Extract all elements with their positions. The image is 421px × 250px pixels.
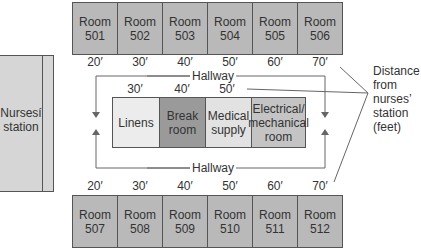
room-label: Room	[214, 15, 246, 29]
room-number: 501	[85, 29, 105, 43]
room-number: 506	[310, 29, 330, 43]
cell-label: Break	[167, 109, 198, 123]
cell-label: Medical	[208, 109, 249, 123]
room-506: Room506	[297, 2, 343, 55]
room-label: Room	[259, 208, 291, 222]
room-number: 508	[130, 222, 150, 236]
distance-label: 50′	[210, 55, 250, 69]
distance-label: 40′	[165, 55, 205, 69]
room-number: 511	[265, 222, 284, 236]
distance-legend: Distance from nurses’ station (feet)	[373, 64, 420, 134]
room-number: 505	[265, 29, 285, 43]
hallway-label-bottom: Hallway	[190, 161, 236, 175]
legend-line: (feet)	[373, 120, 401, 134]
cell-label: room	[265, 130, 292, 144]
room-label: Room	[124, 208, 156, 222]
room-number: 507	[85, 222, 105, 236]
distance-label: 70′	[300, 55, 340, 69]
cell-label: room	[169, 123, 196, 137]
station-divider	[42, 56, 43, 191]
room-label: Room	[169, 208, 201, 222]
room-508: Room508	[117, 195, 163, 248]
room-number: 504	[220, 29, 240, 43]
distance-label: 60′	[255, 55, 295, 69]
room-503: Room503	[162, 2, 208, 55]
cell-label: Linens	[118, 116, 153, 130]
cell-label: mechanical	[248, 116, 309, 130]
room-510: Room510	[207, 195, 253, 248]
distance-label: 50′	[210, 179, 250, 193]
distance-label: 20′	[75, 179, 115, 193]
room-label: Room	[124, 15, 156, 29]
room-507: Room507	[72, 195, 118, 248]
distance-label: 40′	[165, 179, 205, 193]
room-number: 503	[175, 29, 195, 43]
room-label: Room	[214, 208, 246, 222]
room-label: Room	[259, 15, 291, 29]
distance-label: 30′	[120, 55, 160, 69]
station-label-line1: Nursesí	[0, 106, 41, 120]
cell-label: supply	[211, 123, 246, 137]
room-number: 512	[310, 222, 330, 236]
room-511: Room511	[252, 195, 298, 248]
distance-label: 70′	[300, 179, 340, 193]
legend-line: nurses’	[373, 92, 412, 106]
legend-line: station	[373, 106, 408, 120]
station-label-line2: station	[3, 120, 38, 134]
room-505: Room505	[252, 2, 298, 55]
room-509: Room509	[162, 195, 208, 248]
legend-line: Distance	[373, 64, 420, 78]
room-501: Room501	[72, 2, 118, 55]
room-label: Room	[79, 208, 111, 222]
medical-supply-room: Medicalsupply	[205, 97, 252, 148]
room-label: Room	[304, 208, 336, 222]
distance-label: 60′	[255, 179, 295, 193]
hallway-label-top: Hallway	[190, 69, 236, 83]
distance-label: 30′	[120, 179, 160, 193]
nurses-station: Nursesí station	[0, 55, 54, 192]
legend-line: from	[373, 78, 397, 92]
room-label: Room	[169, 15, 201, 29]
room-label: Room	[79, 15, 111, 29]
break-room: Breakroom	[159, 97, 206, 148]
distance-label: 20′	[75, 55, 115, 69]
station-label: Nursesí station	[0, 106, 42, 134]
linens-room: Linens	[112, 97, 160, 148]
room-502: Room502	[117, 2, 163, 55]
distance-label: 30′	[115, 82, 155, 96]
distance-label: 50′	[207, 82, 247, 96]
room-label: Room	[304, 15, 336, 29]
cell-label: Electrical/	[253, 102, 305, 116]
room-number: 502	[130, 29, 150, 43]
electrical-mechanical-room: Electrical/mechanicalroom	[251, 97, 306, 148]
room-number: 510	[220, 222, 240, 236]
distance-label: 40′	[162, 82, 202, 96]
room-504: Room504	[207, 2, 253, 55]
room-number: 509	[175, 222, 195, 236]
room-512: Room512	[297, 195, 343, 248]
